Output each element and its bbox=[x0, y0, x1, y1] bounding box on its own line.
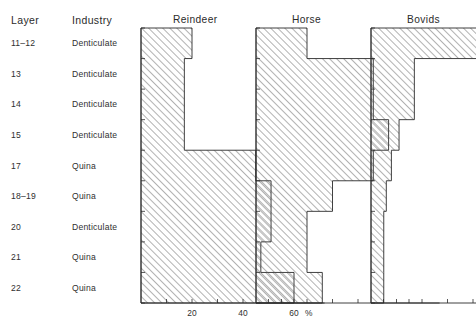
column-header-industry: Industry bbox=[72, 14, 112, 26]
table-row-layer: 20 bbox=[11, 222, 21, 232]
table-row-layer: 22 bbox=[11, 283, 21, 293]
table-row-layer: 14 bbox=[11, 99, 21, 109]
table-row-layer: 17 bbox=[11, 161, 21, 171]
table-row-layer: 15 bbox=[11, 130, 21, 140]
table-row-industry: Quina bbox=[72, 161, 96, 171]
plot-area bbox=[371, 0, 476, 329]
table-row-industry: Quina bbox=[72, 283, 96, 293]
table-row-layer: 11–12 bbox=[11, 38, 35, 48]
bar-series-outline bbox=[256, 28, 389, 303]
bar-series-outline bbox=[371, 28, 476, 303]
table-row-layer: 21 bbox=[11, 252, 21, 262]
table-row-industry: Denticulate bbox=[72, 130, 117, 140]
table-row-industry: Quina bbox=[72, 191, 96, 201]
table-row-industry: Denticulate bbox=[72, 222, 117, 232]
plot-area bbox=[141, 0, 246, 329]
plot-area bbox=[256, 0, 361, 329]
table-row-layer: 13 bbox=[11, 69, 21, 79]
table-row-industry: Denticulate bbox=[72, 38, 117, 48]
table-row-industry: Quina bbox=[72, 252, 96, 262]
x-axis-tick-label: 20 bbox=[187, 308, 197, 318]
table-row-industry: Denticulate bbox=[72, 99, 117, 109]
x-axis-tick-label: 40 bbox=[238, 308, 248, 318]
table-row-industry: Denticulate bbox=[72, 69, 117, 79]
column-header-layer: Layer bbox=[11, 14, 39, 26]
table-row-layer: 18–19 bbox=[11, 191, 36, 201]
